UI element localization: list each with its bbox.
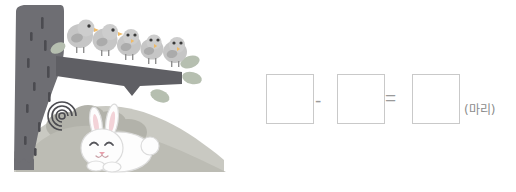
leaf [181, 70, 203, 86]
illustration-birds-on-branch [0, 0, 258, 192]
leaf [148, 87, 171, 106]
subtrahend-box[interactable] [337, 74, 385, 124]
result-box[interactable] [412, 74, 460, 124]
equals-sign: = [385, 88, 396, 107]
minuend-box[interactable] [266, 74, 314, 124]
unit-label: (마리) [464, 100, 495, 117]
minus-sign: - [315, 91, 321, 110]
equation-area: - = (마리) [258, 0, 516, 192]
worksheet-page: - = (마리) [0, 0, 516, 192]
bird-4 [141, 34, 164, 64]
tree-branch [56, 56, 182, 96]
